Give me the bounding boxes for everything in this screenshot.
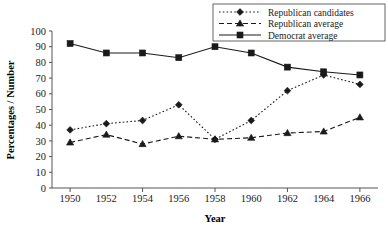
y-axis-title: Percentages / Number [5, 60, 16, 159]
legend: Republican candidatesRepublican averageD… [213, 4, 385, 41]
y-tick-label: 30 [36, 136, 47, 147]
data-point-triangle [139, 140, 146, 146]
data-point-diamond [139, 117, 146, 124]
data-point-diamond [248, 117, 255, 124]
series-2 [67, 114, 364, 147]
x-tick-label: 1960 [241, 193, 262, 204]
data-point-triangle [284, 129, 291, 135]
legend-marker-square [237, 32, 243, 38]
legend-label: Republican average [268, 19, 343, 29]
y-axis-tick-labels: 0102030405060708090100 [30, 26, 46, 194]
y-tick-label: 100 [30, 26, 46, 37]
x-tick-label: 1964 [313, 193, 335, 204]
data-point-square [176, 55, 182, 61]
x-tick-label: 1956 [168, 193, 189, 204]
x-tick-label: 1958 [205, 193, 226, 204]
data-point-square [284, 64, 290, 70]
data-point-triangle [103, 131, 110, 137]
data-point-square [103, 50, 109, 56]
data-point-triangle [356, 114, 363, 120]
data-point-square [357, 72, 363, 78]
x-axis-tick-marks [70, 188, 360, 192]
legend-label: Democrat average [268, 31, 337, 41]
y-tick-label: 90 [36, 41, 47, 52]
x-tick-label: 1954 [132, 193, 154, 204]
data-point-square [321, 69, 327, 75]
data-point-diamond [356, 81, 363, 88]
series-3 [67, 41, 363, 78]
x-tick-label: 1962 [277, 193, 298, 204]
x-tick-label: 1966 [349, 193, 370, 204]
data-point-diamond [67, 127, 74, 134]
data-point-square [248, 50, 254, 56]
data-point-square [140, 50, 146, 56]
y-tick-label: 20 [36, 151, 47, 162]
y-tick-label: 40 [36, 120, 47, 131]
y-tick-label: 80 [36, 57, 47, 68]
line-chart: 0102030405060708090100 19501952195419561… [0, 0, 388, 229]
y-tick-label: 70 [36, 73, 47, 84]
x-axis-tick-labels: 195019521954195619581960196219641966 [60, 193, 371, 204]
data-point-square [212, 44, 218, 50]
y-tick-label: 60 [36, 88, 47, 99]
data-point-diamond [103, 120, 110, 127]
data-point-square [67, 41, 73, 47]
data-point-diamond [175, 101, 182, 108]
series-group [67, 41, 364, 147]
series-line [70, 75, 360, 139]
legend-label: Republican candidates [268, 8, 354, 18]
x-tick-label: 1950 [60, 193, 81, 204]
x-axis-title: Year [205, 213, 226, 224]
y-tick-label: 50 [36, 104, 47, 115]
x-tick-label: 1952 [96, 193, 117, 204]
y-tick-label: 10 [36, 167, 47, 178]
chart-container: 0102030405060708090100 19501952195419561… [0, 0, 388, 229]
data-point-triangle [175, 133, 182, 139]
y-tick-label: 0 [41, 183, 46, 194]
